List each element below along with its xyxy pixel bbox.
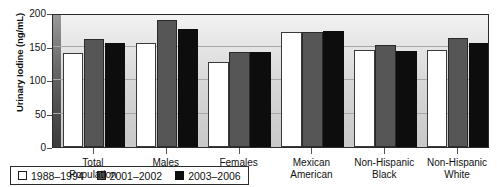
x-tick-mark	[457, 148, 458, 154]
bar	[281, 32, 302, 147]
y-tick-mark	[47, 81, 52, 82]
bar	[208, 62, 229, 147]
x-tick-mark	[311, 148, 312, 154]
y-tick-mark	[47, 14, 52, 15]
y-tick-label: 200	[18, 9, 46, 19]
x-tick-mark	[239, 148, 240, 154]
x-tick-mark	[384, 148, 385, 154]
plot-area	[52, 14, 489, 148]
chart-figure: Urinary Iodine (ng/mL) 050100150200 1988…	[0, 0, 497, 187]
y-tick-mark	[47, 115, 52, 116]
bar	[396, 51, 417, 147]
x-tick-label-line: Non-Hispanic	[412, 157, 497, 169]
y-axis-ticks: 050100150200	[16, 0, 46, 187]
bar	[136, 43, 157, 147]
bar	[448, 38, 469, 147]
y-tick-label: 150	[18, 43, 46, 53]
y-tick-label: 100	[18, 76, 46, 86]
bar	[250, 52, 271, 147]
x-tick-mark	[166, 148, 167, 154]
bar	[427, 50, 448, 147]
y-tick-label: 0	[18, 143, 46, 153]
y-tick-mark	[47, 148, 52, 149]
bar	[63, 53, 84, 147]
bar	[354, 50, 375, 147]
x-tick-label-line: White	[412, 169, 497, 181]
bar	[157, 20, 178, 147]
y-tick-mark	[47, 48, 52, 49]
bar	[178, 29, 199, 147]
bar	[105, 43, 126, 147]
x-tick-label-line: Population	[48, 169, 138, 181]
bar	[302, 32, 323, 147]
x-axis: TotalPopulationMalesFemalesMexicanAmeric…	[52, 148, 489, 187]
legend-swatch-icon	[18, 171, 27, 180]
x-tick-mark	[93, 148, 94, 154]
bar	[469, 43, 489, 147]
bar	[375, 45, 396, 147]
bar	[84, 39, 105, 147]
bar	[323, 31, 344, 147]
plot-left-shading	[53, 15, 61, 147]
y-tick-label: 50	[18, 110, 46, 120]
x-tick-label: Non-HispanicWhite	[412, 157, 497, 180]
bar	[229, 52, 250, 147]
